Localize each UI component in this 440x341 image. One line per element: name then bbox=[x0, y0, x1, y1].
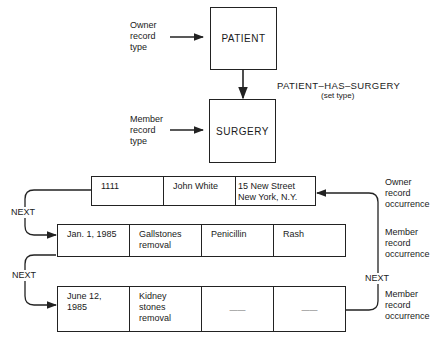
label-line: occurrence bbox=[385, 249, 430, 260]
next-pointer-label: NEXT bbox=[12, 270, 36, 281]
label-line: Owner bbox=[130, 20, 157, 31]
label-line: type bbox=[130, 42, 157, 53]
next-pointer-label: NEXT bbox=[11, 207, 35, 218]
surgery-procedure-cell: Gallstones removal bbox=[130, 225, 202, 256]
surgery-date-cell: June 12, 1985 bbox=[58, 287, 130, 331]
surgery-drug-cell: —— bbox=[202, 287, 274, 331]
surgery-date-cell: Jan. 1, 1985 bbox=[58, 225, 130, 256]
patient-address-cell: 15 New Street New York, N.Y. bbox=[236, 177, 315, 205]
set-caption: (set type) bbox=[321, 91, 440, 100]
surgery-side-effect-cell: Rash bbox=[274, 225, 345, 256]
label-line: record bbox=[130, 125, 163, 136]
owner-record-occurrence-label: Owner record occurrence bbox=[385, 177, 430, 210]
patient-id-cell: 1111 bbox=[92, 177, 164, 205]
label-line: Member bbox=[385, 289, 430, 300]
patient-label: PATIENT bbox=[221, 33, 265, 44]
label-line: record bbox=[385, 300, 430, 311]
label-line: type bbox=[130, 136, 163, 147]
patient-name-cell: John White bbox=[164, 177, 236, 205]
label-line: Member bbox=[385, 227, 430, 238]
member-record-type-label: Member record type bbox=[130, 114, 163, 147]
surgery-record-type-box: SURGERY bbox=[209, 99, 276, 163]
patient-record-type-box: PATIENT bbox=[210, 7, 277, 70]
surgery-drug-cell: Penicillin bbox=[202, 225, 274, 256]
member-record-occurrence-label: Member record occurrence bbox=[385, 227, 430, 260]
label-line: occurrence bbox=[385, 311, 430, 322]
label-line: record bbox=[130, 31, 157, 42]
surgery-procedure-cell: Kidney stones removal bbox=[130, 287, 202, 331]
member-record-occurrence-1: Jan. 1, 1985 Gallstones removal Penicill… bbox=[57, 224, 346, 257]
owner-record-occurrence: 1111 John White 15 New Street New York, … bbox=[91, 176, 316, 206]
member-record-occurrence-2: June 12, 1985 Kidney stones removal —— —… bbox=[57, 286, 346, 332]
label-line: occurrence bbox=[385, 199, 430, 210]
member-record-occurrence-label: Member record occurrence bbox=[385, 289, 430, 322]
label-line: record bbox=[385, 238, 430, 249]
owner-record-type-label: Owner record type bbox=[130, 20, 157, 53]
label-line: Owner bbox=[385, 177, 430, 188]
set-name: PATIENT–HAS–SURGERY bbox=[277, 80, 440, 91]
label-line: Member bbox=[130, 114, 163, 125]
label-line: record bbox=[385, 188, 430, 199]
next-pointer-label: NEXT bbox=[365, 273, 389, 284]
surgery-side-effect-cell: —— bbox=[274, 287, 345, 331]
surgery-label: SURGERY bbox=[216, 126, 269, 137]
set-type-label: PATIENT–HAS–SURGERY (set type) bbox=[277, 80, 440, 100]
